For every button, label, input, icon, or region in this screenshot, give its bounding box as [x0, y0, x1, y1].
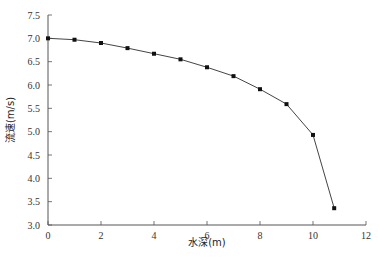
x-axis-title: 水深(m) — [188, 237, 226, 248]
velocity-line — [48, 38, 334, 208]
x-tick-label: 0 — [46, 230, 51, 241]
x-tick-label: 4 — [152, 230, 157, 241]
y-tick-label: 5.0 — [28, 126, 41, 137]
data-point-marker — [232, 74, 236, 78]
y-tick-label: 3.5 — [28, 196, 41, 207]
y-tick-label: 4.0 — [28, 173, 41, 184]
y-tick-label: 6.0 — [28, 80, 41, 91]
y-tick-label: 6.5 — [28, 56, 41, 67]
data-point-marker — [205, 65, 209, 69]
data-point-marker — [152, 52, 156, 56]
data-point-marker — [99, 41, 103, 45]
y-axis-title: 流速(m/s) — [4, 97, 16, 143]
x-tick-label: 2 — [99, 230, 104, 241]
y-tick-label: 7.5 — [28, 10, 41, 21]
y-tick-label: 7.0 — [28, 33, 41, 44]
x-tick-label: 10 — [308, 230, 318, 241]
y-tick-label: 4.5 — [28, 150, 41, 161]
data-point-marker — [179, 57, 183, 61]
data-point-marker — [126, 46, 130, 50]
data-point-marker — [285, 102, 289, 106]
x-tick-label: 8 — [258, 230, 263, 241]
velocity-depth-chart: 3.03.54.04.55.05.56.06.57.07.5 024681012… — [0, 0, 379, 264]
data-point-marker — [311, 133, 315, 137]
x-tick-label: 12 — [361, 230, 371, 241]
y-tick-label: 3.0 — [28, 220, 41, 231]
y-tick-label: 5.5 — [28, 103, 41, 114]
data-point-marker — [332, 206, 336, 210]
data-point-marker — [73, 38, 77, 42]
data-point-marker — [258, 87, 262, 91]
data-point-marker — [46, 36, 50, 40]
